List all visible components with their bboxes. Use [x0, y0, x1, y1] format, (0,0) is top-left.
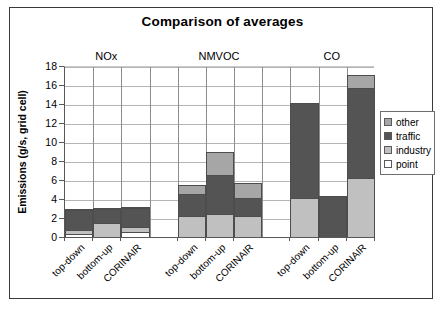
bar-segment-other [234, 183, 262, 198]
bar-segment-industry [93, 223, 121, 237]
y-axis-tick-label: 4 [5, 193, 57, 205]
gridline [65, 67, 374, 68]
bar-segment-other [347, 75, 375, 88]
bar-segment-traffic [178, 194, 206, 216]
y-axis-tick-label: 12 [5, 117, 57, 129]
legend-item-other[interactable]: other [384, 115, 431, 129]
bar-segment-other [206, 152, 234, 176]
legend-item-traffic[interactable]: traffic [384, 129, 431, 143]
y-axis-tick-label: 16 [5, 79, 57, 91]
bar-segment-traffic [93, 209, 121, 222]
bar-segment-traffic [65, 210, 93, 230]
bar [234, 183, 262, 237]
bar-segment-industry [206, 214, 234, 237]
gridline [65, 105, 374, 106]
bar [319, 196, 347, 237]
bar [93, 208, 121, 237]
y-axis-tick-label: 6 [5, 174, 57, 186]
legend-item-point[interactable]: point [384, 157, 431, 171]
legend-label: industry [396, 145, 431, 156]
y-axis-labels: 024681012141618 [0, 0, 57, 311]
bar [121, 207, 149, 237]
y-axis-tick-label: 2 [5, 212, 57, 224]
category-separator [262, 67, 263, 237]
bar-segment-traffic [234, 198, 262, 216]
bar-segment-industry [234, 216, 262, 237]
x-axis-tick [374, 237, 375, 241]
gridline [65, 86, 374, 87]
bar-segment-traffic [121, 208, 149, 227]
chart-figure: Comparison of averages Emissions (g/s, g… [0, 0, 445, 311]
y-axis-tick-label: 18 [5, 60, 57, 72]
bar-segment-traffic [347, 88, 375, 178]
bar [290, 103, 318, 237]
x-axis-tick-label: CORINAIR [327, 241, 393, 255]
legend-swatch-icon [384, 118, 392, 126]
group-label-co: CO [289, 50, 374, 62]
legend-swatch-icon [384, 132, 392, 140]
x-axis-line [64, 237, 374, 238]
legend-swatch-icon [384, 146, 392, 154]
group-label-nmvoc: NMVOC [177, 50, 262, 62]
gridline [65, 124, 374, 125]
bar-segment-other [178, 185, 206, 195]
y-axis-tick-label: 8 [5, 155, 57, 167]
legend: othertrafficindustrypoint [380, 111, 435, 175]
bar-segment-traffic [206, 175, 234, 214]
y-axis-tick-label: 10 [5, 136, 57, 148]
category-separator [150, 67, 151, 237]
legend-swatch-icon [384, 160, 392, 168]
legend-label: point [396, 159, 418, 170]
chart-title: Comparison of averages [0, 14, 445, 29]
bar-segment-traffic [290, 103, 318, 198]
legend-label: other [396, 117, 419, 128]
bar-segment-industry [290, 198, 318, 237]
bar-segment-traffic [319, 196, 347, 237]
bar-segment-industry [347, 178, 375, 237]
bar-segment-industry [178, 216, 206, 237]
bar [206, 152, 234, 237]
group-label-nox: NOx [64, 50, 149, 62]
plot-area [64, 66, 374, 237]
bar [178, 185, 206, 237]
legend-item-industry[interactable]: industry [384, 143, 431, 157]
legend-label: traffic [396, 131, 420, 142]
gridline [65, 143, 374, 144]
bar [65, 209, 93, 237]
bar [347, 75, 375, 237]
y-axis-tick-label: 14 [5, 98, 57, 110]
